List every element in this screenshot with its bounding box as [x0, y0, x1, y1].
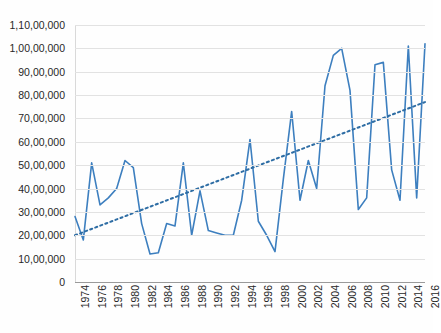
gridline — [75, 259, 425, 260]
x-tick-label: 1994 — [246, 285, 258, 308]
y-tick-label: 70,00,000 — [18, 112, 65, 124]
y-tick-label: 1,10,00,000 — [10, 19, 65, 31]
x-tick-label: 2006 — [346, 285, 358, 308]
x-tick-label: 1976 — [96, 285, 108, 308]
x-tick-label: 1986 — [179, 285, 191, 308]
y-tick-label: 50,00,000 — [18, 159, 65, 171]
x-axis-line — [75, 282, 425, 283]
gridline — [75, 48, 425, 49]
gridline — [75, 25, 425, 26]
x-tick-label: 2016 — [429, 285, 441, 308]
x-tick-label: 1982 — [146, 285, 158, 308]
x-tick-label: 1992 — [229, 285, 241, 308]
plot-area — [75, 25, 425, 282]
x-tick-label: 2008 — [362, 285, 374, 308]
gridline — [75, 142, 425, 143]
x-tick-label: 2010 — [379, 285, 391, 308]
x-tick-label: 1998 — [279, 285, 291, 308]
y-tick-label: 30,00,000 — [18, 206, 65, 218]
x-tick-label: 1990 — [212, 285, 224, 308]
y-tick-label: 40,00,000 — [18, 183, 65, 195]
gridline — [75, 95, 425, 96]
x-tick-label: 1974 — [79, 285, 91, 308]
x-axis-tick-labels: 1974197619781980198219841986198819901992… — [75, 285, 425, 333]
y-axis-tick-labels: 1,10,00,0001,00,00,00090,00,00080,00,000… — [0, 25, 70, 282]
data-series-line — [75, 44, 425, 254]
x-tick-label: 1980 — [129, 285, 141, 308]
gridline — [75, 165, 425, 166]
x-tick-label: 1988 — [196, 285, 208, 308]
x-tick-label: 2002 — [312, 285, 324, 308]
trendline — [75, 102, 425, 235]
x-tick-label: 2004 — [329, 285, 341, 308]
y-tick-label: 0 — [59, 276, 65, 288]
y-tick-label: 90,00,000 — [18, 66, 65, 78]
y-tick-label: 60,00,000 — [18, 136, 65, 148]
line-series-svg — [75, 25, 425, 282]
gridline — [75, 189, 425, 190]
y-tick-label: 1,00,00,000 — [10, 42, 65, 54]
x-tick-label: 2012 — [396, 285, 408, 308]
y-tick-label: 10,00,000 — [18, 253, 65, 265]
y-tick-label: 80,00,000 — [18, 89, 65, 101]
x-tick-label: 2014 — [412, 285, 424, 308]
gridline — [75, 72, 425, 73]
gridline — [75, 118, 425, 119]
x-tick-label: 1978 — [112, 285, 124, 308]
y-tick-label: 20,00,000 — [18, 229, 65, 241]
x-tick-label: 1984 — [162, 285, 174, 308]
x-tick-label: 1996 — [262, 285, 274, 308]
x-tick-label: 2000 — [296, 285, 308, 308]
gridline — [75, 212, 425, 213]
gridline — [75, 235, 425, 236]
